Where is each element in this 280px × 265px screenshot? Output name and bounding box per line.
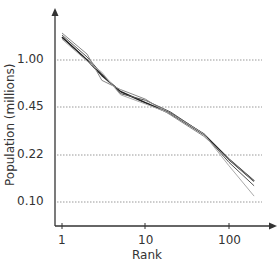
gridlines <box>57 60 262 202</box>
y-axis-arrow-icon <box>52 8 59 16</box>
y-tick-label-1: 1.00 <box>17 52 44 66</box>
y-axis-label: Population (millions) <box>3 64 17 186</box>
data-series <box>62 33 254 196</box>
x-axis-label: Rank <box>132 248 162 262</box>
chart-canvas <box>0 0 280 265</box>
x-tick-label-1: 1 <box>58 233 66 247</box>
series-line-2 <box>62 35 254 186</box>
y-tick-label-3: 0.22 <box>17 147 44 161</box>
y-tick-label-4: 0.10 <box>17 194 44 208</box>
x-tick-label-3: 100 <box>218 233 241 247</box>
x-tick-label-2: 10 <box>138 233 153 247</box>
x-axis-arrow-icon <box>269 223 277 230</box>
y-tick-label-2: 0.45 <box>17 99 44 113</box>
